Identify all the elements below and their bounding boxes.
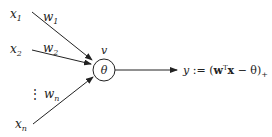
node-theta-label: θ bbox=[101, 64, 108, 77]
edge-1 bbox=[32, 12, 92, 60]
edge-n bbox=[33, 77, 93, 124]
input-ellipsis: ⋮ bbox=[29, 87, 41, 101]
perceptron-diagram: x1 w1 x2 w2 ⋮ xn wn v θ y := (wTx − θ)+ bbox=[0, 0, 272, 137]
input-2-label: x2 bbox=[10, 42, 22, 58]
weight-2-label: w2 bbox=[43, 41, 58, 57]
input-n-label: xn bbox=[15, 117, 27, 133]
input-n: xn wn bbox=[15, 77, 93, 133]
node-top-label: v bbox=[101, 44, 108, 57]
input-1-label: x1 bbox=[10, 7, 22, 23]
input-2: x2 w2 bbox=[10, 41, 91, 64]
neuron-node: v θ bbox=[93, 44, 115, 81]
output-formula: y := (wTx − θ)+ bbox=[182, 64, 268, 79]
weight-n-label: wn bbox=[44, 87, 59, 103]
weight-1-label: w1 bbox=[43, 10, 58, 26]
